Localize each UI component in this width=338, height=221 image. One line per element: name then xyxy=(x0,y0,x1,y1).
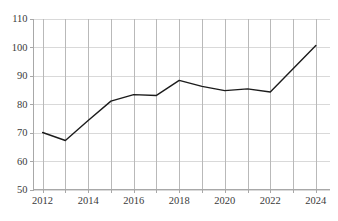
x-tick-label: 2014 xyxy=(78,195,100,206)
chart-canvas: 5060708090100110 20122014201620182020202… xyxy=(0,0,338,221)
x-tick-label: 2018 xyxy=(169,195,190,206)
y-tick-label: 90 xyxy=(17,70,28,81)
y-tick-label: 50 xyxy=(17,184,28,195)
y-tick-label: 80 xyxy=(17,99,28,110)
x-tick-label: 2012 xyxy=(32,195,53,206)
y-tick-label: 70 xyxy=(17,127,28,138)
y-tick-label: 60 xyxy=(17,156,28,167)
x-tick-label: 2024 xyxy=(305,195,327,206)
y-tick-label: 100 xyxy=(12,42,28,53)
x-tick-label: 2022 xyxy=(260,195,281,206)
line-chart-figure: 5060708090100110 20122014201620182020202… xyxy=(0,0,338,221)
x-tick-label: 2020 xyxy=(214,195,235,206)
chart-background xyxy=(0,0,338,221)
x-tick-label: 2016 xyxy=(123,195,144,206)
y-tick-label: 110 xyxy=(12,13,27,24)
